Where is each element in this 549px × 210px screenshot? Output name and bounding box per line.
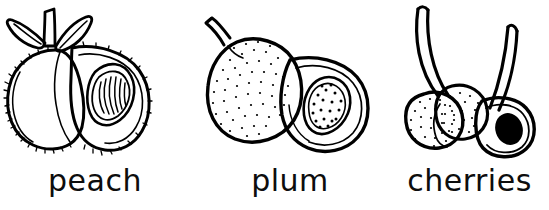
- cherries-label: cherries: [390, 160, 549, 202]
- peach-pit-grooves: [99, 77, 126, 114]
- plum-label: plum: [190, 160, 390, 202]
- fruit-group-plum: plum: [190, 0, 390, 210]
- peach-illustration: [0, 0, 190, 165]
- plum-stipple: [212, 41, 289, 137]
- plum-half: [281, 58, 368, 152]
- fruit-group-cherries: cherries: [390, 0, 549, 210]
- plum-illustration: [190, 0, 390, 165]
- fruit-group-peach: peach: [0, 0, 190, 210]
- plum-stem: [206, 18, 230, 45]
- peach-label: peach: [0, 160, 190, 202]
- peach-leaf-left: [7, 20, 45, 48]
- illustration-page: peach: [0, 0, 549, 210]
- peach-stem: [44, 9, 55, 46]
- cherry-stem-left: [417, 7, 448, 96]
- cherry-pit-solid: [492, 111, 525, 147]
- cherry-front-stipple: [410, 98, 455, 147]
- cherries-illustration: [390, 0, 549, 165]
- peach-fuzz: [4, 47, 71, 153]
